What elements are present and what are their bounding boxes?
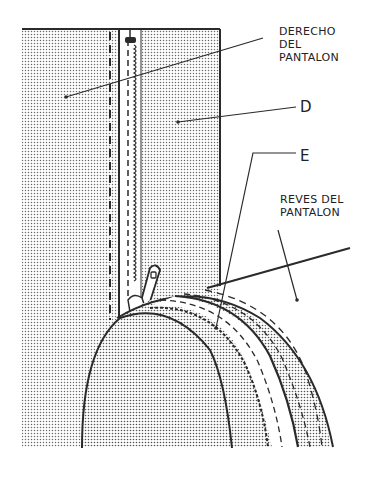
label-d: D [300,99,312,115]
label-e: E [300,148,310,164]
label-derecho-del-pantalon: DERECHO DEL PANTALON [279,25,339,64]
label-reves-del-pantalon: REVES DEL PANTALON [280,193,344,219]
zipper-diagram [0,0,369,477]
